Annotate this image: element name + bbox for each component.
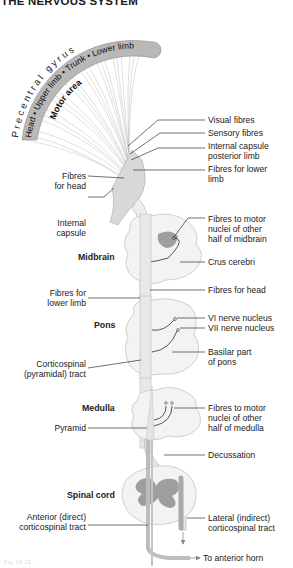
region-medulla: Medulla [82,403,115,413]
label-crus-cerebri: Crus cerebri [208,257,255,267]
medulla-section [132,387,201,440]
label-fibres-for-head: Fibresfor head [54,171,86,191]
label-anterior-tract: Anterior (direct)corticospinal tract [19,512,86,532]
label-motor-nuclei-midbrain: Fibres to motornuclei of otherhalf of mi… [208,214,267,244]
label-motor-nuclei-medulla: Fibres to motornuclei of otherhalf of me… [208,403,266,433]
label-vii-nerve-nucleus: VII nerve nucleus [208,323,274,333]
figure-caption: Fig. 14.13 ... [4,559,37,565]
label-lateral-tract: Lateral (indirect)corticospinal tract [208,513,275,533]
label-decussation: Decussation [208,450,255,460]
label-internal-capsule-posterior: Internal capsuleposterior limb [208,141,269,161]
label-visual-fibres: Visual fibres [208,115,255,125]
pons-section [125,299,198,375]
label-basilar-pons: Basilar partof pons [208,347,251,367]
label-vi-nerve-nucleus: VI nerve nucleus [208,313,272,323]
midbrain-section [124,214,201,284]
label-fibres-lower-limb-left: Fibres forlower limb [47,288,86,308]
label-pyramid: Pyramid [54,423,86,433]
corticospinal-pathway-diagram: Head • Upper limb • Trunk • Lower limb P… [0,0,293,568]
label-anterior-horn: To anterior horn [203,553,263,563]
label-fibres-head: Fibres for head [208,285,266,295]
label-sensory-fibres: Sensory fibres [208,128,263,138]
label-internal-capsule: Internalcapsule [56,218,86,238]
label-fibres-lower-limb: Fibres for lowerlimb [208,164,267,184]
label-corticospinal-tract: Corticospinal(pyramidal) tract [24,359,86,379]
region-spinal-cord: Spinal cord [67,490,115,500]
region-midbrain: Midbrain [78,252,115,262]
region-pons: Pons [94,320,116,330]
